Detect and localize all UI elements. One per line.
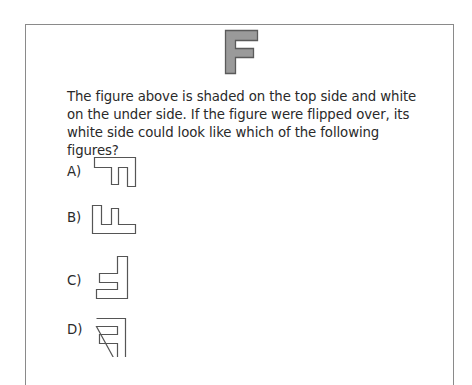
option-c-figure-icon[interactable]: [97, 257, 128, 299]
question-text: The figure above is shaded on the top si…: [67, 88, 427, 160]
option-b-label[interactable]: B): [67, 210, 81, 225]
option-b-figure-icon[interactable]: [93, 206, 136, 234]
option-d-figure-icon[interactable]: [97, 319, 126, 358]
option-a-label[interactable]: A): [67, 164, 81, 179]
option-d-label[interactable]: D): [67, 322, 82, 337]
option-c-label[interactable]: C): [67, 273, 81, 288]
option-a-figure-icon[interactable]: [95, 158, 136, 187]
shaded-f-icon: [226, 31, 258, 74]
